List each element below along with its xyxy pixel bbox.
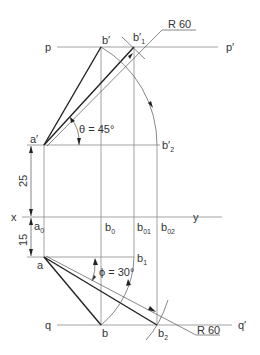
label-b02: b02 [161,221,175,235]
label-r60-bottom: R 60 [197,324,220,336]
label-q: q [45,319,51,331]
arrow-r60-bottom [148,306,156,312]
label-b2-prime: b′2 [162,139,174,153]
label-y: y [193,211,199,223]
phi-arrow-2 [92,275,96,281]
label-b01: b01 [137,221,151,235]
line-a-b [44,257,101,325]
dim-15-arrow-top [29,218,33,225]
label-b0: b0 [105,221,115,235]
label-p: p [45,41,51,53]
label-b-prime: b′ [102,34,110,46]
projection-diagram: p p′ q q′ x y a′ a b′ b′1 b′2 a0 b0 b01 … [0,0,260,355]
label-b: b [102,327,108,339]
dim-25-arrow-top [29,146,33,153]
label-a: a [37,259,44,271]
arrow-r60-top [128,53,133,59]
label-b1-prime: b′1 [133,31,145,45]
dim-15-arrow-bottom [29,249,33,256]
label-q-prime: q′ [238,319,246,331]
label-a0: a0 [34,220,44,234]
label-dim-15: 15 [17,234,29,246]
label-b1: b1 [137,252,147,266]
label-b2: b2 [158,327,168,341]
phi-arrow [93,258,98,265]
theta-arrow [77,138,81,145]
label-a-prime: a′ [30,133,38,145]
label-p-prime: p′ [226,41,234,53]
label-phi: ϕ = 30° [99,266,134,278]
dim-25-arrow-bottom [29,209,33,216]
label-x: x [11,211,17,223]
label-r60-top: R 60 [168,18,191,30]
label-dim-25: 25 [17,175,29,187]
label-theta: θ = 45° [79,123,114,135]
